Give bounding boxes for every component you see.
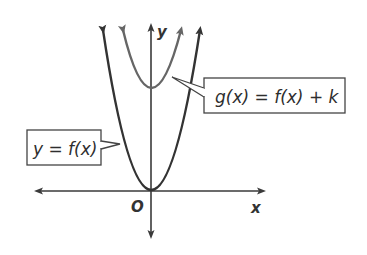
origin-label: O <box>131 198 144 216</box>
curve-g <box>123 30 181 88</box>
y-axis-label: y <box>157 23 168 41</box>
callout-g-text: g(x) = f(x) + k <box>215 87 340 107</box>
x-axis-label: x <box>250 199 262 217</box>
transformation-diagram: y x O g(x) = f(x) + k y = f(x) <box>0 0 367 255</box>
callout-f-text: y = f(x) <box>32 139 97 159</box>
callout-g: g(x) = f(x) + k <box>172 77 345 113</box>
callout-f: y = f(x) <box>27 130 120 165</box>
